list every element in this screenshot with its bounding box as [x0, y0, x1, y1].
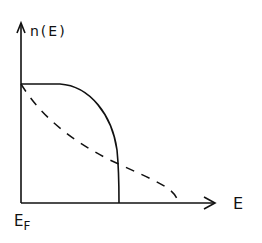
- x-axis-label: E: [233, 194, 243, 213]
- fermi-energy-subscript: F: [23, 219, 30, 233]
- solid-curve: [21, 84, 119, 203]
- dashed-curve: [21, 84, 178, 203]
- fermi-energy-label: EF: [14, 212, 30, 233]
- y-axis-label: n(E): [30, 23, 67, 39]
